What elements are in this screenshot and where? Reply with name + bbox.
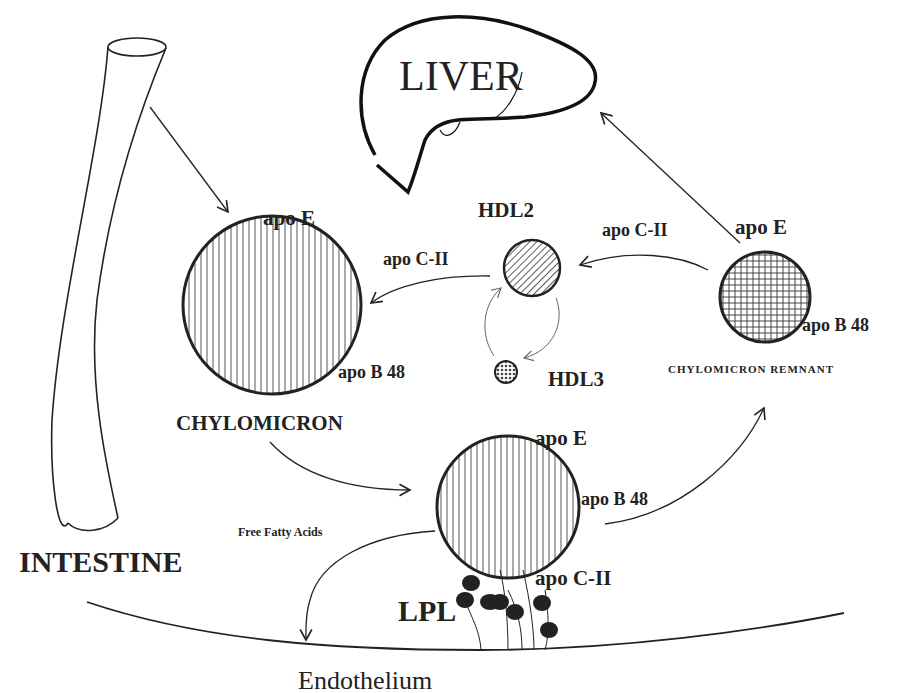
chylomicron-particle [183, 216, 361, 394]
liver-label: LIVER [399, 55, 523, 97]
endothelium-label: Endothelium [298, 668, 432, 693]
capillary-apo-e-label: apo E [535, 428, 587, 449]
hdl2-particle [504, 240, 560, 296]
chylomicron-apo-b48-label: apo B 48 [338, 363, 405, 381]
chylomicron-remnant-label: CHYLOMICRON REMNANT [668, 364, 834, 375]
hdl3-label: HDL3 [548, 369, 604, 390]
intestine-label: INTESTINE [19, 547, 182, 577]
hdl-cycle-arrows [485, 288, 559, 358]
remnant-apo-b48-label: apo B 48 [802, 316, 869, 334]
arrow-chylomicron-to-capillary [270, 442, 410, 490]
hdl2-label: HDL2 [478, 200, 534, 221]
arrow-hdl2-to-chylomicron [371, 276, 490, 303]
chylomicron-label: CHYLOMICRON [176, 413, 343, 434]
endothelium-line [87, 602, 844, 650]
capillary-apo-c2-label: apo C-II [535, 568, 611, 589]
intestine-shape [52, 38, 166, 530]
capillary-chylomicron-particle [437, 436, 579, 578]
chylomicron-apo-e-label: apo E [263, 208, 315, 229]
hdl2-to-chylomicron-apo-c2-label: apo C-II [383, 250, 449, 268]
remnant-to-hdl2-apo-c2-label: apo C-II [602, 221, 668, 239]
capillary-apo-b48-label: apo B 48 [581, 490, 648, 508]
chylomicron-remnant-particle [720, 252, 810, 342]
arrow-remnant-to-hdl2 [580, 255, 708, 270]
remnant-apo-e-label: apo E [735, 217, 787, 238]
hdl3-particle [495, 361, 517, 383]
lpl-label: LPL [398, 596, 456, 626]
free-fatty-acids-label: Free Fatty Acids [238, 526, 322, 538]
liver-shape [361, 17, 595, 192]
arrow-intestine-to-chylomicron [150, 107, 228, 212]
